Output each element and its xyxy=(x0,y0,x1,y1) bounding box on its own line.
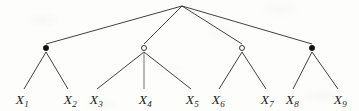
leaf-base-x3: X xyxy=(90,92,98,107)
leaf-label-x7: X7 xyxy=(261,93,274,107)
leaf-subscript-x9: 9 xyxy=(342,99,347,109)
leaf-base-x8: X xyxy=(286,92,294,107)
leaf-label-x8: X8 xyxy=(286,93,299,107)
leaf-subscript-x7: 7 xyxy=(269,99,274,109)
edge-root-to-node1 xyxy=(46,6,182,44)
leaf-label-x9: X9 xyxy=(334,93,347,107)
tree-diagram-canvas: X1 X2 X3 X4 X5 X6 X7 X8 X9 xyxy=(0,0,359,111)
edge-node2-to-x5 xyxy=(144,52,191,89)
leaf-subscript-x3: 3 xyxy=(98,99,103,109)
leaf-subscript-x8: 8 xyxy=(294,99,299,109)
edge-node2-to-x3 xyxy=(97,52,144,89)
edge-node3-to-x7 xyxy=(242,52,266,89)
edge-node1-to-x2 xyxy=(46,52,68,89)
leaf-label-x1: X1 xyxy=(16,93,29,107)
node-marker-group xyxy=(43,45,314,50)
leaf-subscript-x6: 6 xyxy=(220,99,225,109)
leaf-label-x4: X4 xyxy=(139,93,152,107)
edge-node4-to-x8 xyxy=(293,52,312,89)
leaf-edge-group xyxy=(24,52,338,89)
edge-root-to-node4 xyxy=(182,6,312,44)
leaf-label-x5: X5 xyxy=(186,93,199,107)
filled-node-marker xyxy=(309,45,314,50)
edge-node1-to-x1 xyxy=(24,52,46,89)
leaf-subscript-x2: 2 xyxy=(72,99,77,109)
open-node-marker xyxy=(240,46,245,51)
leaf-base-x1: X xyxy=(16,92,24,107)
leaf-base-x4: X xyxy=(139,92,147,107)
open-node-marker xyxy=(142,46,147,51)
root-edge-group xyxy=(46,6,312,44)
leaf-base-x2: X xyxy=(64,92,72,107)
leaf-base-x7: X xyxy=(261,92,269,107)
leaf-subscript-x5: 5 xyxy=(194,99,199,109)
edge-node4-to-x9 xyxy=(312,52,338,89)
leaf-base-x6: X xyxy=(212,92,220,107)
leaf-label-x2: X2 xyxy=(64,93,77,107)
leaf-subscript-x4: 4 xyxy=(147,99,152,109)
edge-node3-to-x6 xyxy=(219,52,242,89)
edge-root-to-node3 xyxy=(182,6,242,44)
filled-node-marker xyxy=(43,45,48,50)
leaf-label-x3: X3 xyxy=(90,93,103,107)
tree-diagram-graphic xyxy=(0,0,359,111)
leaf-base-x9: X xyxy=(334,92,342,107)
leaf-label-x6: X6 xyxy=(212,93,225,107)
leaf-subscript-x1: 1 xyxy=(24,99,29,109)
leaf-base-x5: X xyxy=(186,92,194,107)
